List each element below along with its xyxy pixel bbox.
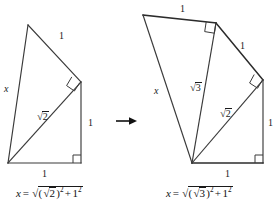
left-label-hypotenuse-sqrt2: √2: [36, 111, 49, 122]
right-formula-inner-radical: √3: [192, 187, 206, 199]
left-side-x-edge: [8, 25, 28, 163]
right-formula-inner-body: 3: [199, 187, 206, 199]
right-outer-slant-edge: [216, 23, 263, 80]
left-label-slant-top: 1: [59, 31, 64, 41]
left-formula: x=√(√2)2+12: [16, 186, 83, 199]
left-hypotenuse-sqrt2-edge: [8, 82, 81, 163]
right-label-base: 1: [225, 169, 230, 179]
right-sqrt3-edge: [192, 23, 216, 163]
right-label-sqrt3: √3: [189, 82, 202, 93]
left-right-angle-marker-base: [73, 155, 81, 163]
right-formula: x=√(√3)2+12: [166, 186, 233, 199]
right-figure-geometry: [143, 15, 263, 163]
left-slant-top-edge: [28, 25, 81, 82]
right-label-vertical-right: 1: [268, 118, 273, 128]
right-sqrt2-edge: [192, 80, 263, 163]
left-label-vertical-right: 1: [88, 118, 93, 128]
right-formula-outer-radical: √(√3)2+12: [181, 186, 233, 199]
left-label-base: 1: [42, 169, 47, 179]
left-formula-inner-exponent: 2: [60, 186, 64, 194]
left-radical-body: 2: [42, 111, 49, 122]
left-label-side-x: x: [4, 84, 8, 94]
right-label-outer-slant: 1: [240, 41, 245, 51]
right-sqrt2-radical-body: 2: [225, 108, 232, 119]
left-formula-outer-radical: √(√2)2+12: [31, 186, 83, 199]
right-formula-second-exponent: 2: [228, 186, 232, 194]
right-label-side-x: x: [154, 86, 158, 96]
right-label-top-edge: 1: [180, 4, 185, 14]
right-sqrt3-radical-body: 3: [195, 82, 202, 93]
right-arrow-icon: [116, 117, 137, 125]
left-formula-outer-radicand: (√2)2+12: [38, 186, 83, 199]
right-formula-equals: =: [171, 187, 181, 199]
left-formula-inner-radical: √2: [42, 187, 56, 199]
right-side-x-edge: [143, 15, 192, 163]
right-formula-outer-radicand: (√3)2+12: [188, 186, 233, 199]
right-formula-inner-exponent: 2: [210, 186, 214, 194]
right-label-sqrt2: √2: [219, 108, 232, 119]
right-top-edge: [143, 15, 216, 23]
left-formula-inner-body: 2: [49, 187, 56, 199]
left-formula-second-exponent: 2: [78, 186, 82, 194]
left-figure-geometry: [8, 25, 81, 163]
figure-root: 1 x √2 1 1 1 x √3 √2 1 1 1 x=√(√2)2+12 x…: [0, 0, 278, 204]
left-formula-equals: =: [21, 187, 31, 199]
right-right-angle-marker-base: [255, 155, 263, 163]
